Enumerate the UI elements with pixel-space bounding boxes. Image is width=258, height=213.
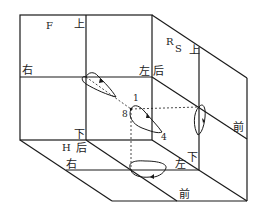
point-8-dot — [130, 108, 132, 110]
label-side-S: S — [175, 43, 182, 54]
frame-lines — [20, 15, 247, 201]
projection-diagram: F 上 右 R S 上 左 后 前 下 H 后 右 左 下 前 1 4 8 — [0, 0, 258, 213]
label-F: F — [46, 20, 53, 31]
label-side-R: R — [166, 36, 174, 47]
label-side-front: 前 — [233, 120, 244, 134]
curve-front-small — [82, 73, 116, 97]
label-front-bottom: 下 — [74, 128, 85, 141]
label-point-8: 8 — [122, 109, 128, 119]
label-point-1: 1 — [133, 93, 139, 103]
label-h-left: 左 — [175, 158, 186, 171]
label-h-back: 后 — [76, 142, 87, 155]
diagram-canvas: F 上 右 R S 上 左 后 前 下 H 后 右 左 下 前 1 4 8 — [0, 0, 258, 213]
label-front-top: 上 — [74, 18, 85, 31]
arrow-icon — [99, 78, 104, 83]
projection-lines — [86, 77, 199, 170]
label-side-left: 左 — [139, 65, 150, 78]
label-point-4: 4 — [161, 132, 167, 142]
label-H: H — [62, 142, 71, 153]
label-side-top: 上 — [189, 44, 200, 57]
label-h-right: 右 — [66, 157, 77, 171]
curve-horizontal — [130, 161, 166, 177]
curve-main — [130, 106, 162, 133]
label-side-back: 后 — [153, 65, 164, 78]
projection-ray — [86, 77, 131, 109]
label-front-right: 右 — [22, 63, 33, 77]
label-h-front: 前 — [179, 187, 190, 201]
arrow-icon — [150, 174, 154, 179]
label-side-bottom: 下 — [187, 151, 198, 164]
